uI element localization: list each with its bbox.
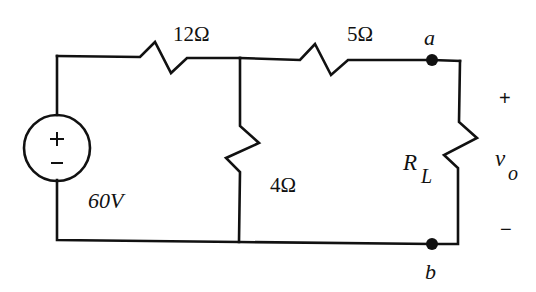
resistor-12-ohm-zigzag [57, 42, 240, 73]
vo-plus-label: + [499, 88, 511, 108]
terminal-b-dot [426, 238, 438, 250]
circuit-diagram [0, 0, 536, 292]
voltage-source-circle [24, 115, 90, 181]
terminal-a-dot [426, 54, 438, 66]
source-plus-icon [51, 133, 63, 145]
rl-label-sub: L [421, 166, 432, 186]
rl-label-main: R [403, 151, 417, 174]
source-value-label: 60V [88, 190, 123, 212]
resistor-12-ohm-label: 12Ω [173, 24, 210, 45]
vo-minus-label: − [500, 219, 512, 239]
terminal-b-label: b [425, 261, 436, 283]
resistor-4-ohm-zigzag [226, 58, 259, 242]
vo-label-sub: o [508, 163, 518, 183]
vo-label-main: v [495, 147, 505, 170]
resistor-4-ohm-label: 4Ω [270, 175, 296, 196]
resistor-5-ohm-label: 5Ω [347, 24, 373, 45]
terminal-a-label: a [424, 27, 435, 49]
resistor-rl-zigzag [432, 61, 477, 244]
